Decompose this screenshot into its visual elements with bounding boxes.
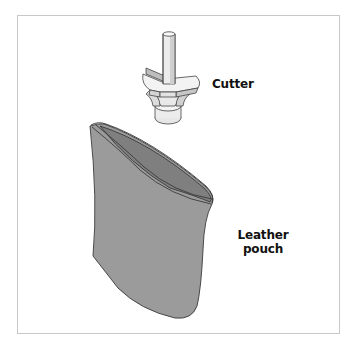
leather-pouch-label-line1: Leather bbox=[236, 228, 290, 242]
leather-pouch-label: Leather pouch bbox=[236, 228, 290, 256]
leather-pouch-icon bbox=[90, 123, 213, 319]
leather-pouch-label-line2: pouch bbox=[236, 242, 290, 256]
cutter-label: Cutter bbox=[212, 77, 254, 91]
illustration bbox=[0, 0, 356, 347]
cutter-icon bbox=[143, 32, 200, 124]
